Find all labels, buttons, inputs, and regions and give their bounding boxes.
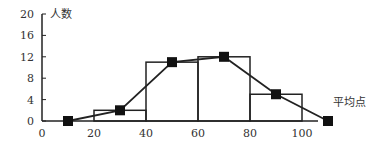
axes	[42, 14, 318, 121]
y-tick-label: 0	[27, 115, 34, 128]
y-tick-label: 20	[20, 8, 34, 21]
polygon-marker	[323, 116, 333, 126]
polygon-marker	[115, 105, 125, 115]
x-tick-label: 40	[139, 127, 153, 140]
y-axis-label: 人数	[50, 8, 72, 21]
y-tick-label: 16	[20, 29, 34, 42]
y-tick-label: 4	[27, 94, 34, 107]
polygon-marker	[63, 116, 73, 126]
x-tick-label: 100	[292, 127, 313, 140]
histogram-chart: 048121620020406080100 人数 平均点	[0, 0, 382, 147]
y-tick-label: 12	[20, 51, 34, 64]
polygon-marker	[167, 57, 177, 67]
x-tick-label: 80	[243, 127, 257, 140]
histogram-bars	[94, 57, 302, 121]
x-tick-label: 20	[87, 127, 101, 140]
histogram-bar	[146, 62, 198, 121]
polygon-marker	[271, 89, 281, 99]
x-axis-label: 平均点	[333, 96, 366, 109]
x-tick-label: 0	[39, 127, 46, 140]
histogram-bar	[198, 57, 250, 121]
polygon-marker	[219, 52, 229, 62]
y-tick-label: 8	[27, 72, 34, 85]
x-tick-label: 60	[191, 127, 205, 140]
